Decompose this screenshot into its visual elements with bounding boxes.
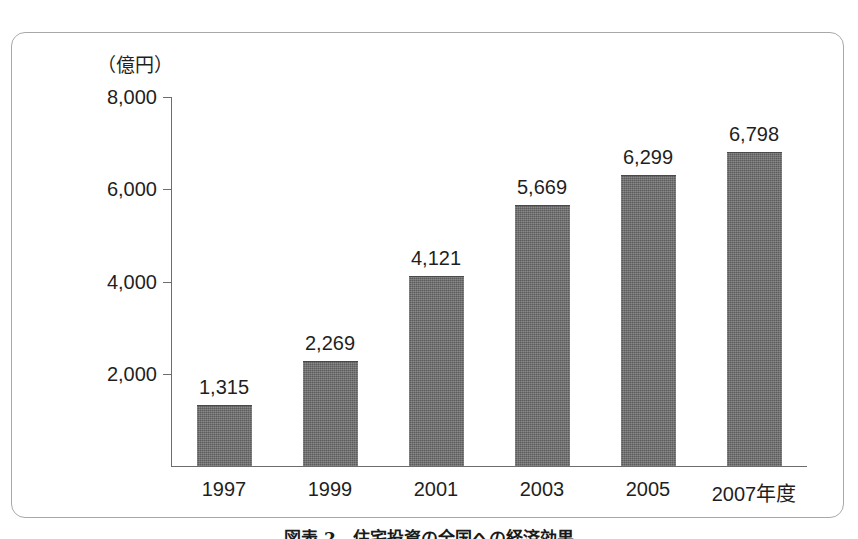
y-axis-unit-label: （億円） [97, 50, 173, 77]
x-axis-category-label: 2007年度 [712, 478, 797, 507]
bar-group: 6,2992005 [621, 97, 676, 466]
bars-layer: 1,31519972,26919994,12120015,66920036,29… [171, 97, 807, 466]
bar [515, 205, 570, 466]
plot-area: 2,0004,0006,0008,000 1,31519972,26919994… [171, 97, 807, 466]
y-axis-tick-label: 8,000 [107, 86, 157, 109]
bar-value-label: 6,798 [729, 123, 779, 146]
y-axis-tick [163, 282, 171, 283]
x-axis-category-label: 2001 [414, 478, 459, 501]
x-axis-category-label: 1999 [308, 478, 353, 501]
bar-chart: （億円） 2,0004,0006,0008,000 1,31519972,269… [12, 33, 845, 519]
bar [303, 361, 358, 466]
bar [197, 405, 252, 466]
bar-group: 2,2691999 [303, 97, 358, 466]
y-axis-tick-label: 6,000 [107, 178, 157, 201]
figure-frame: （億円） 2,0004,0006,0008,000 1,31519972,269… [11, 32, 844, 518]
bar-group: 6,7982007年度 [727, 97, 782, 466]
figure-caption: 図表 2 住宅投資の全国への経済効果 [0, 524, 858, 539]
x-axis-category-label: 2003 [520, 478, 565, 501]
bar-value-label: 2,269 [305, 332, 355, 355]
bar-value-label: 5,669 [517, 176, 567, 199]
bar-group: 5,6692003 [515, 97, 570, 466]
y-axis-tick-label: 2,000 [107, 362, 157, 385]
bar [621, 175, 676, 466]
bar-value-label: 1,315 [199, 376, 249, 399]
y-axis-tick [163, 97, 171, 98]
x-axis-category-label: 2005 [626, 478, 671, 501]
x-axis-line [171, 466, 807, 467]
bar-value-label: 4,121 [411, 247, 461, 270]
bar-value-label: 6,299 [623, 146, 673, 169]
y-axis-tick [163, 374, 171, 375]
bar-group: 1,3151997 [197, 97, 252, 466]
bar [409, 276, 464, 466]
y-axis-tick [163, 189, 171, 190]
bar [727, 152, 782, 466]
bar-group: 4,1212001 [409, 97, 464, 466]
x-axis-category-label: 1997 [202, 478, 247, 501]
y-axis-tick-label: 4,000 [107, 270, 157, 293]
